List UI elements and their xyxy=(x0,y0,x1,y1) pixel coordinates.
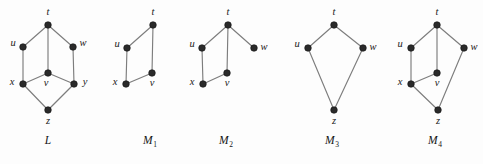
graph-M4-edges xyxy=(411,25,464,110)
vertex-L-u xyxy=(20,44,27,51)
edge-M1-x-v xyxy=(126,73,152,84)
vertex-label-M2-x: x xyxy=(189,76,195,87)
edge-M2-u-x xyxy=(202,48,203,84)
edge-L-t-w xyxy=(48,25,73,47)
vertex-label-M3-w: w xyxy=(369,41,376,52)
vertex-label-M2-u: u xyxy=(189,38,194,49)
vertex-L-v xyxy=(45,70,52,77)
graph-caption-M1: M1 xyxy=(142,134,157,149)
vertex-M2-x xyxy=(200,81,207,88)
graph-figure-canvas: tuwvxyzLtuvxM1tuwvxM2tuwzM3tuwvxzM4 xyxy=(0,0,483,164)
vertex-label-M4-x: x xyxy=(397,76,403,87)
graph-M2: tuwvxM2 xyxy=(189,6,268,149)
vertex-label-L-t: t xyxy=(47,6,51,17)
vertex-M3-w xyxy=(360,45,367,52)
vertex-label-M2-t: t xyxy=(227,6,231,17)
edge-M2-x-v xyxy=(203,73,227,84)
vertex-label-M4-w: w xyxy=(470,41,477,52)
edge-M3-u-z xyxy=(308,48,334,110)
vertex-label-M3-u: u xyxy=(294,38,299,49)
vertex-M3-u xyxy=(305,45,312,52)
vertex-L-w xyxy=(70,44,77,51)
vertex-M4-v xyxy=(434,70,441,77)
vertex-M3-t xyxy=(331,22,338,29)
edge-M3-w-z xyxy=(334,48,363,110)
vertex-L-y xyxy=(71,81,78,88)
vertex-label-M4-t: t xyxy=(436,6,440,17)
vertex-label-L-v: v xyxy=(44,77,49,88)
vertex-label-L-w: w xyxy=(79,37,86,48)
vertex-label-M3-t: t xyxy=(333,6,337,17)
vertex-M4-x xyxy=(408,81,415,88)
vertex-L-x xyxy=(20,81,27,88)
edge-M4-t-u xyxy=(411,25,437,48)
vertex-M4-w xyxy=(461,45,468,52)
vertex-label-M4-u: u xyxy=(397,38,402,49)
edge-M3-t-u xyxy=(308,25,334,48)
vertex-label-M2-w: w xyxy=(260,41,267,52)
vertex-label-M1-x: x xyxy=(112,76,118,87)
vertex-L-t xyxy=(45,22,52,29)
vertex-label-M1-u: u xyxy=(114,38,119,49)
vertex-label-M2-v: v xyxy=(225,77,230,88)
vertex-M2-v xyxy=(224,70,231,77)
vertex-label-M4-z: z xyxy=(435,115,440,126)
edge-M2-t-w xyxy=(228,25,254,48)
graph-caption-M2: M2 xyxy=(218,134,233,149)
edge-M2-t-u xyxy=(202,25,228,48)
edge-M3-t-w xyxy=(334,25,363,48)
vertex-label-L-x: x xyxy=(9,76,15,87)
vertex-L-z xyxy=(45,107,52,114)
vertex-label-M3-z: z xyxy=(331,115,336,126)
graph-M4: tuwvxzM4 xyxy=(397,6,478,149)
vertex-label-M4-v: v xyxy=(435,77,440,88)
vertex-M3-z xyxy=(331,107,338,114)
vertex-M2-w xyxy=(251,45,258,52)
edge-L-t-u xyxy=(23,25,48,47)
vertex-M4-u xyxy=(408,45,415,52)
edge-L-y-z xyxy=(48,84,74,110)
edge-M4-w-z xyxy=(438,48,464,110)
edge-L-v-y xyxy=(48,73,74,84)
vertex-label-M1-v: v xyxy=(150,77,155,88)
vertex-label-M1-t: t xyxy=(152,6,156,17)
vertex-label-L-u: u xyxy=(10,37,15,48)
edge-M1-t-u xyxy=(127,25,153,48)
graph-L: tuwvxyzL xyxy=(9,6,88,146)
vertex-label-L-z: z xyxy=(45,115,50,126)
edge-L-w-y xyxy=(73,47,74,84)
graphs-layer: tuwvxyzLtuvxM1tuwvxM2tuwzM3tuwvxzM4 xyxy=(9,6,478,149)
vertex-M4-z xyxy=(435,107,442,114)
vertex-M1-v xyxy=(149,70,156,77)
vertex-label-L-y: y xyxy=(82,76,88,87)
vertex-M1-t xyxy=(150,22,157,29)
edge-M1-u-x xyxy=(126,48,127,84)
vertex-M2-t xyxy=(225,22,232,29)
edge-M2-t-v xyxy=(227,25,228,73)
vertex-M1-x xyxy=(123,81,130,88)
graph-M3: tuwzM3 xyxy=(294,6,376,149)
graph-M3-vertices: tuwz xyxy=(294,6,376,126)
graph-M1: tuvxM1 xyxy=(112,6,158,149)
figure-root: tuwvxyzLtuvxM1tuwvxM2tuwzM3tuwvxzM4 xyxy=(0,0,483,164)
edge-M4-x-v xyxy=(411,73,437,84)
graph-caption-M4: M4 xyxy=(427,134,442,149)
vertex-M2-u xyxy=(199,45,206,52)
graph-M3-edges xyxy=(308,25,363,110)
edge-M4-t-w xyxy=(437,25,464,48)
graph-L-edges xyxy=(23,25,74,110)
graph-M1-edges xyxy=(126,25,153,84)
edge-M1-t-v xyxy=(152,25,153,73)
vertex-M1-u xyxy=(124,45,131,52)
graph-caption-M3: M3 xyxy=(324,134,339,149)
vertex-M4-t xyxy=(434,22,441,29)
graph-M1-vertices: tuvx xyxy=(112,6,157,88)
graph-caption-L: L xyxy=(44,134,51,146)
